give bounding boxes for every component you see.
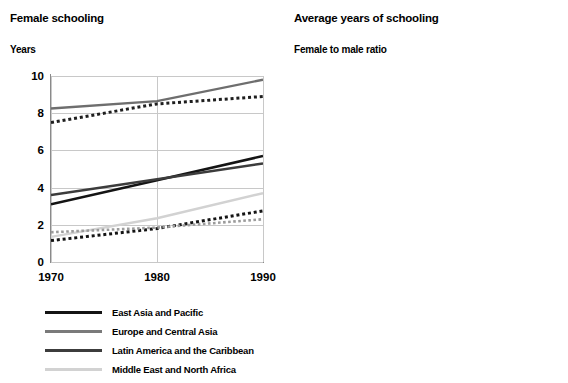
series-line: [51, 219, 263, 232]
x-axis-tick-label: 1970: [38, 271, 64, 283]
left-chart-axis-label: Years: [10, 44, 36, 55]
left-series-lines: [51, 76, 263, 262]
legend-item-label: Europe and Central Asia: [112, 326, 217, 337]
gridline-horizontal: [51, 262, 263, 263]
right-chart-axis-label: Female to male ratio: [294, 44, 387, 55]
legend-item[interactable]: East Asia and Pacific: [45, 303, 254, 322]
legend-item-label: East Asia and Pacific: [112, 307, 203, 318]
y-axis-tick-label: 10: [2, 70, 44, 82]
legend-item-label: Middle East and North Africa: [112, 364, 236, 375]
y-axis-tick-label: 6: [2, 144, 44, 156]
left-plot-area: 1086420 197019801990: [51, 76, 263, 262]
x-axis-tick-label: 1990: [250, 271, 276, 283]
legend-item-label: Latin America and the Caribbean: [112, 345, 254, 356]
chart-panel-female-to-male-ratio: Average years of schooling Female to mal…: [284, 0, 568, 383]
y-axis-tick-label: 4: [2, 182, 44, 194]
series-line: [51, 211, 263, 241]
y-axis-tick-label: 0: [2, 256, 44, 268]
legend-swatch-solid-line-icon: [45, 307, 102, 318]
right-chart-title: Average years of schooling: [294, 12, 439, 24]
chart-panel-female-schooling: Female schooling Years 1086420 197019801…: [0, 0, 284, 383]
left-chart-title: Female schooling: [10, 12, 104, 24]
legend-swatch-solid-line-icon: [45, 364, 102, 375]
legend-item[interactable]: Europe and Central Asia: [45, 322, 254, 341]
x-axis-tick-label: 1980: [144, 271, 170, 283]
gridline-vertical: [263, 76, 264, 262]
left-legend: East Asia and PacificEurope and Central …: [45, 303, 254, 379]
series-line: [51, 163, 263, 195]
y-axis-tick-label: 2: [2, 219, 44, 231]
legend-swatch-solid-line-icon: [45, 326, 102, 337]
y-axis-tick-label: 8: [2, 107, 44, 119]
legend-item[interactable]: Middle East and North Africa: [45, 360, 254, 379]
legend-item[interactable]: Latin America and the Caribbean: [45, 341, 254, 360]
legend-swatch-solid-line-icon: [45, 345, 102, 356]
